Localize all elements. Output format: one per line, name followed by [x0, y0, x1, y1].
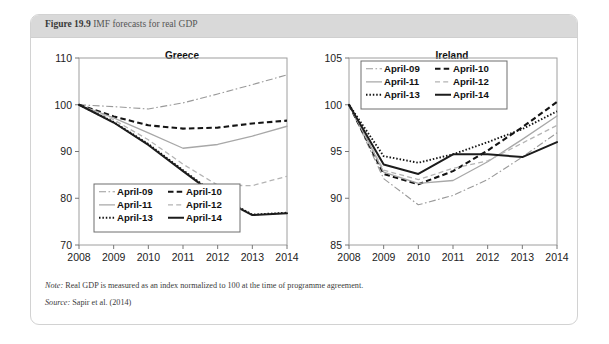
figure-title: IMF forecasts for real GDP [93, 19, 197, 29]
svg-text:April-12: April-12 [186, 199, 222, 210]
charts-area: Greece 708090100110200820092010201120122… [31, 38, 577, 288]
source-text: Sapir et al. (2014) [70, 298, 131, 307]
svg-text:2011: 2011 [442, 251, 465, 263]
svg-text:2013: 2013 [241, 251, 265, 263]
svg-text:2009: 2009 [102, 251, 126, 263]
chart-panel-greece: Greece 708090100110200820092010201120122… [31, 38, 305, 288]
svg-text:April-12: April-12 [453, 76, 489, 87]
svg-text:2009: 2009 [372, 251, 396, 263]
note-text: Real GDP is measured as an index normali… [63, 281, 363, 290]
svg-text:105: 105 [324, 52, 342, 64]
svg-text:2010: 2010 [137, 251, 161, 263]
line-chart-greece: 7080901001102008200920102011201220132014… [31, 38, 305, 288]
figure-footnotes: Note: Real GDP is measured as an index n… [31, 281, 577, 315]
svg-text:100: 100 [324, 99, 342, 111]
svg-text:2014: 2014 [545, 251, 569, 263]
source-label: Source: [45, 298, 70, 307]
svg-text:2012: 2012 [206, 251, 230, 263]
svg-text:April-09: April-09 [117, 186, 153, 197]
line-chart-ireland: 8590951001052008200920102011201220132014… [305, 38, 578, 288]
svg-text:90: 90 [330, 192, 342, 204]
svg-text:April-13: April-13 [384, 89, 420, 100]
figure-caption: Figure 19.9 IMF forecasts for real GDP [45, 19, 198, 29]
svg-text:April-10: April-10 [453, 63, 489, 74]
svg-text:April-10: April-10 [186, 186, 222, 197]
figure-number: Figure 19.9 [45, 19, 91, 29]
svg-text:April-11: April-11 [117, 199, 153, 210]
svg-text:70: 70 [60, 239, 72, 251]
figure-page: Figure 19.9 IMF forecasts for real GDP G… [0, 0, 609, 344]
svg-text:April-11: April-11 [384, 76, 420, 87]
svg-text:85: 85 [330, 239, 342, 251]
source-line: Source: Sapir et al. (2014) [45, 298, 577, 307]
svg-text:April-14: April-14 [186, 212, 222, 223]
svg-text:2014: 2014 [275, 251, 299, 263]
svg-text:2012: 2012 [476, 251, 500, 263]
svg-text:90: 90 [60, 145, 72, 157]
svg-text:April-09: April-09 [384, 63, 420, 74]
figure-header-bar: Figure 19.9 IMF forecasts for real GDP [31, 15, 577, 38]
svg-text:2013: 2013 [511, 251, 535, 263]
svg-text:April-14: April-14 [453, 89, 489, 100]
svg-text:2010: 2010 [407, 251, 431, 263]
svg-text:80: 80 [60, 192, 72, 204]
svg-text:2011: 2011 [172, 251, 195, 263]
note-line: Note: Real GDP is measured as an index n… [45, 281, 577, 290]
svg-text:100: 100 [54, 99, 72, 111]
svg-text:2008: 2008 [337, 251, 361, 263]
figure-card: Figure 19.9 IMF forecasts for real GDP G… [30, 14, 578, 325]
svg-text:110: 110 [55, 52, 72, 64]
svg-text:April-13: April-13 [117, 212, 153, 223]
svg-text:95: 95 [330, 145, 342, 157]
svg-text:2008: 2008 [67, 251, 91, 263]
note-label: Note: [45, 281, 63, 290]
chart-panel-ireland: Ireland 85909510010520082009201020112012… [305, 38, 578, 288]
